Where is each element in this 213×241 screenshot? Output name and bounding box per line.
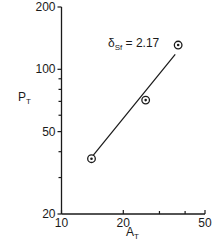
circled-dot-marker-center (177, 44, 180, 47)
fit-line (93, 54, 175, 155)
x-axis-label: AT (126, 225, 139, 241)
y-tick-label: 50 (42, 125, 56, 139)
data-point (88, 155, 96, 163)
y-tick-label: 200 (35, 0, 55, 14)
circled-dot-marker-center (90, 157, 93, 160)
y-tick-label: 100 (35, 62, 55, 76)
x-tick-label: 50 (198, 216, 212, 230)
regression-line (93, 54, 175, 155)
circled-dot-marker-center (144, 99, 147, 102)
y-tick-labels: 2050100200 (35, 0, 55, 221)
data-point (142, 96, 150, 104)
y-axis-label: PT (18, 90, 31, 106)
log-log-chart: 2050100200 102050 PT AT δSf = 2.17 (0, 0, 213, 241)
data-point (174, 41, 182, 49)
slope-annotation: δSf = 2.17 (108, 36, 160, 52)
y-tick-label: 20 (42, 207, 56, 221)
x-tick-label: 10 (55, 216, 69, 230)
